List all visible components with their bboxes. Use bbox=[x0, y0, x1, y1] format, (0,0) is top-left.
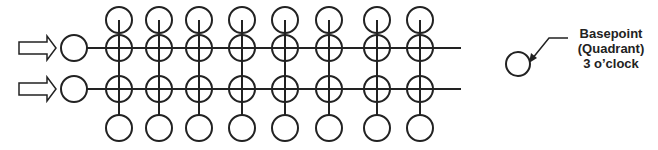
legend-leader-line bbox=[532, 38, 568, 59]
bottom-node-circle bbox=[186, 115, 212, 141]
bottom-node-circle bbox=[364, 115, 390, 141]
legend-label: Basepoint (Quadrant) 3 o’clock bbox=[566, 26, 656, 71]
inlet-arrow-icon bbox=[19, 77, 56, 101]
grid-diagram bbox=[0, 0, 658, 150]
legend-line-1: Basepoint bbox=[566, 26, 656, 41]
inlet-arrow-icon bbox=[19, 36, 56, 60]
bottom-node-circle bbox=[146, 115, 172, 141]
bottom-node-circle bbox=[106, 115, 132, 141]
legend-line-2: (Quadrant) bbox=[566, 41, 656, 56]
legend-circle-icon bbox=[506, 52, 530, 76]
bottom-node-circle bbox=[407, 115, 433, 141]
bottom-node-circle bbox=[229, 115, 255, 141]
inlet-circle bbox=[61, 76, 87, 102]
inlet-circle bbox=[61, 35, 87, 61]
bottom-node-circle bbox=[272, 115, 298, 141]
legend-line-3: 3 o’clock bbox=[566, 56, 656, 71]
bottom-node-circle bbox=[316, 115, 342, 141]
legend-basepoint bbox=[506, 38, 568, 76]
